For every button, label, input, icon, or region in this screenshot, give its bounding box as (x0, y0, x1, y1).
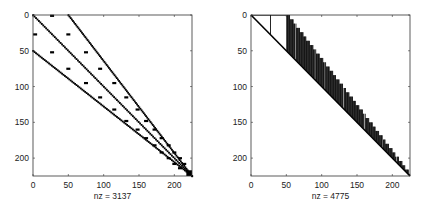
sparsity-plot-left: 0 50 100 150 200 0 50 100 150 200 nz = 3… (15, 10, 193, 201)
nonzero-entry (124, 96, 128, 98)
x-tick-label: 200 (385, 180, 399, 190)
y-tick-label: 200 (15, 153, 29, 163)
nonzero-diagonal (251, 15, 410, 176)
x-axis-label-nz: nz = 3137 (94, 191, 132, 201)
nonzero-entry (178, 157, 182, 159)
x-tick-label: 50 (64, 180, 74, 190)
nonzero-entry (124, 120, 128, 122)
nonzero-column (342, 84, 343, 108)
nonzero-entry (178, 167, 182, 169)
nonzero-entry (66, 33, 70, 35)
nonzero-entry (167, 144, 171, 146)
spy-plots: 0 50 100 150 200 0 50 100 150 200 nz = 3… (0, 0, 427, 214)
nonzero-entry (167, 157, 171, 159)
x-tick-label: 100 (315, 180, 329, 190)
nonzero-column (324, 62, 325, 88)
nonzero-marks-right (251, 15, 410, 176)
nonzero-entry (112, 108, 116, 110)
nonzero-entry (153, 144, 157, 146)
nonzero-corner-block (186, 170, 192, 176)
x-tick-label: 0 (249, 180, 254, 190)
x-tick-label: 150 (350, 180, 364, 190)
nonzero-entry (160, 137, 164, 139)
nonzero-column (382, 135, 383, 147)
nonzero-entry (144, 137, 148, 139)
nonzero-column (294, 24, 295, 59)
nonzero-entry (112, 82, 116, 84)
nonzero-column (314, 49, 315, 78)
nonzero-column-spike (270, 15, 271, 34)
nonzero-marks-left (32, 14, 193, 177)
nonzero-entry (50, 51, 54, 53)
nonzero-entry (172, 151, 176, 153)
y-tick-label: 50 (238, 46, 248, 56)
x-axis-label-nz: nz = 4775 (312, 191, 350, 201)
nonzero-entry (160, 151, 164, 153)
nonzero-entry (136, 128, 140, 130)
nonzero-entry (153, 128, 157, 130)
nonzero-entry (136, 108, 140, 110)
nonzero-entry (172, 163, 176, 165)
y-tick-label: 0 (24, 10, 29, 20)
nonzero-entry (66, 68, 70, 70)
y-tick-label: 100 (15, 82, 29, 92)
y-tick-label: 50 (20, 46, 30, 56)
nonzero-column (363, 114, 364, 129)
x-tick-label: 50 (282, 180, 292, 190)
y-tick-label: 0 (242, 10, 247, 20)
nonzero-entry (84, 82, 88, 84)
y-tick-label: 150 (233, 117, 247, 127)
nonzero-entry (98, 96, 102, 98)
nonzero-entry (182, 163, 186, 165)
y-tick-label: 100 (233, 82, 247, 92)
y-tick-label: 200 (233, 153, 247, 163)
x-tick-label: 0 (31, 180, 36, 190)
x-tick-label: 100 (97, 180, 111, 190)
nonzero-entry (33, 33, 37, 35)
x-tick-label: 200 (167, 180, 181, 190)
nonzero-entry (144, 120, 148, 122)
nonzero-entry (84, 51, 88, 53)
x-tick-label: 150 (132, 180, 146, 190)
sparsity-plot-right: 0 50 100 150 200 0 50 100 150 200 nz = 4… (233, 10, 410, 201)
nonzero-entry (98, 68, 102, 70)
y-tick-label: 150 (15, 117, 29, 127)
